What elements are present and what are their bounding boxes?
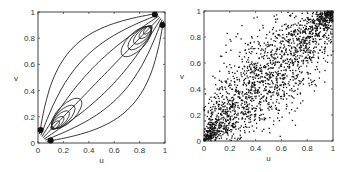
scatter-point — [290, 14, 291, 15]
scatter-point — [233, 106, 234, 107]
scatter-point — [281, 25, 282, 26]
scatter-point — [331, 33, 332, 34]
scatter-point — [261, 109, 262, 110]
scatter-point — [303, 78, 304, 79]
scatter-point — [264, 76, 265, 77]
scatter-point — [260, 98, 261, 99]
scatter-point — [275, 51, 276, 52]
scatter-point — [312, 28, 313, 29]
scatter-point — [307, 62, 308, 63]
scatter-point — [306, 40, 307, 41]
scatter-point — [281, 96, 282, 97]
scatter-point — [322, 52, 323, 53]
scatter-point — [261, 94, 262, 95]
scatter-point — [256, 127, 257, 128]
scatter-point — [291, 25, 292, 26]
scatter-point — [280, 41, 281, 42]
scatter-point — [288, 34, 289, 35]
scatter-point — [231, 67, 232, 68]
scatter-point — [206, 126, 207, 127]
scatter-point — [211, 135, 212, 136]
scatter-point — [288, 39, 289, 40]
scatter-point — [283, 47, 284, 48]
scatter-point — [326, 37, 327, 38]
scatter-point — [237, 114, 238, 115]
scatter-point — [297, 88, 298, 89]
scatter-point — [229, 103, 230, 104]
scatter-point — [310, 50, 311, 51]
scatter-point — [255, 78, 256, 79]
scatter-point — [211, 113, 212, 114]
scatter-point — [271, 56, 272, 57]
scatter-point — [231, 115, 232, 116]
scatter-point — [230, 129, 231, 130]
scatter-point — [207, 136, 208, 137]
scatter-point — [320, 39, 321, 40]
scatter-point — [255, 63, 256, 64]
scatter-point — [310, 21, 311, 22]
scatter-point — [295, 16, 296, 17]
scatter-point — [296, 39, 297, 40]
scatter-point — [286, 63, 287, 64]
contour-xtick-label: 0 — [36, 146, 41, 155]
scatter-point — [315, 84, 316, 85]
scatter-point — [326, 16, 327, 17]
scatter-point — [299, 43, 300, 44]
scatter-point — [251, 101, 252, 102]
scatter-point — [317, 16, 318, 17]
scatter-ytick-label: 0.4 — [190, 85, 202, 94]
scatter-point — [215, 127, 216, 128]
scatter-point — [318, 58, 319, 59]
scatter-point — [204, 135, 205, 136]
scatter-point — [319, 50, 320, 51]
scatter-point — [273, 57, 274, 58]
scatter-point — [264, 55, 265, 56]
scatter-point — [249, 103, 250, 104]
scatter-point — [230, 100, 231, 101]
scatter-point — [209, 124, 210, 125]
scatter-point — [278, 92, 279, 93]
scatter-point — [228, 111, 229, 112]
scatter-point — [290, 51, 291, 52]
scatter-point — [210, 107, 211, 108]
scatter-point — [288, 45, 289, 46]
scatter-point — [237, 113, 238, 114]
scatter-point — [304, 50, 305, 51]
scatter-point — [241, 104, 242, 105]
scatter-point — [312, 51, 313, 52]
scatter-point — [221, 56, 222, 57]
scatter-point — [280, 98, 281, 99]
scatter-point — [295, 47, 296, 48]
scatter-point — [264, 42, 265, 43]
scatter-point — [214, 106, 215, 107]
scatter-point — [282, 37, 283, 38]
scatter-point — [265, 80, 266, 81]
scatter-point — [239, 56, 240, 57]
scatter-point — [237, 102, 238, 103]
scatter-point — [267, 93, 268, 94]
scatter-point — [291, 102, 292, 103]
contour-xtick-label: 0.2 — [58, 146, 70, 155]
scatter-ytick-label: 0.2 — [190, 111, 202, 120]
scatter-point — [311, 30, 312, 31]
scatter-point — [300, 66, 301, 67]
scatter-point — [321, 18, 322, 19]
scatter-point — [232, 110, 233, 111]
scatter-point — [282, 90, 283, 91]
scatter-point — [275, 105, 276, 106]
scatter-point — [250, 117, 251, 118]
scatter-point — [319, 71, 320, 72]
scatter-point — [289, 112, 290, 113]
scatter-point — [307, 60, 308, 61]
scatter-point — [225, 129, 226, 130]
scatter-point — [311, 82, 312, 83]
scatter-point — [290, 39, 291, 40]
scatter-point — [327, 43, 328, 44]
scatter-point — [221, 114, 222, 115]
scatter-point — [233, 108, 234, 109]
scatter-point — [220, 107, 221, 108]
scatter-point — [309, 85, 310, 86]
scatter-point — [291, 48, 292, 49]
scatter-ytick-label: 0.8 — [190, 33, 202, 42]
scatter-point — [204, 109, 205, 110]
